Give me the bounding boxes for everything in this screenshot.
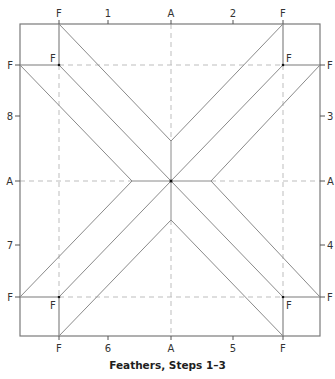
label-right-3: 3 (327, 111, 333, 122)
top-labels: F 1 A 2 F (56, 8, 286, 19)
label-inner-f-bottom-right: F (286, 300, 292, 311)
dot-top-left (58, 64, 61, 67)
label-inner-f-top-left: F (50, 53, 56, 64)
label-bottom-5: 5 (230, 343, 236, 354)
dot-bottom-left (58, 296, 61, 299)
label-right-a: A (327, 176, 334, 187)
dot-center (170, 180, 173, 183)
label-right-4: 4 (327, 240, 333, 251)
right-labels: F 3 A 4 F (327, 60, 334, 303)
label-bottom-f-left: F (56, 343, 62, 354)
label-bottom-a: A (168, 343, 175, 354)
figure-caption: Feathers, Steps 1–3 (0, 359, 335, 371)
label-bottom-f-right: F (280, 343, 286, 354)
label-left-7: 7 (7, 240, 13, 251)
label-right-f-top: F (327, 60, 333, 71)
label-top-1: 1 (105, 8, 111, 19)
label-top-f-right: F (280, 8, 286, 19)
feathers-diagram: F 1 A 2 F F 6 A 5 F F 8 A 7 F F 3 A 4 F … (0, 0, 335, 379)
label-left-8: 8 (7, 111, 13, 122)
label-left-f-bottom: F (7, 292, 13, 303)
label-inner-f-bottom-left: F (50, 300, 56, 311)
label-top-a: A (168, 8, 175, 19)
dot-top-right (282, 64, 285, 67)
left-labels: F 8 A 7 F (6, 60, 13, 303)
label-left-f-top: F (7, 60, 13, 71)
label-top-2: 2 (230, 8, 236, 19)
dot-bottom-right (282, 296, 285, 299)
label-top-f-left: F (56, 8, 62, 19)
bottom-labels: F 6 A 5 F (56, 343, 286, 354)
label-right-f-bottom: F (327, 292, 333, 303)
label-left-a: A (6, 176, 13, 187)
label-bottom-6: 6 (105, 343, 111, 354)
label-inner-f-top-right: F (286, 53, 292, 64)
